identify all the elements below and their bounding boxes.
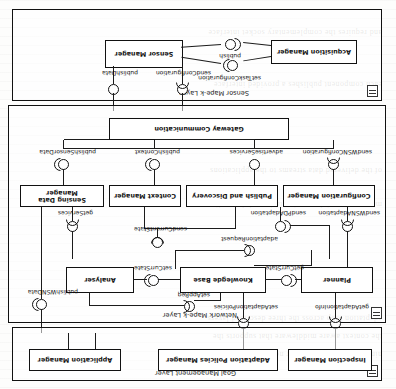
component-planner[interactable]: Planner bbox=[301, 267, 373, 293]
wire bbox=[63, 169, 64, 185]
interface-set-app-req-label: setAppReq bbox=[178, 292, 210, 299]
interface-adaptation-request-label: adaptationRequest bbox=[221, 236, 278, 243]
interface-set-adaptation-policies-label: setAdaptationPolicies bbox=[214, 304, 278, 311]
wire bbox=[68, 333, 69, 349]
wire bbox=[90, 305, 184, 306]
wire bbox=[265, 279, 281, 280]
wire bbox=[235, 207, 236, 229]
wire bbox=[64, 148, 334, 149]
wire bbox=[95, 333, 96, 349]
interface-advertise-services-label: advertiseServices bbox=[230, 149, 283, 156]
interface-set-curr-state-label: setCurrState bbox=[134, 265, 172, 272]
wire bbox=[254, 169, 255, 185]
wire bbox=[220, 293, 221, 301]
interface-publish-label: publish bbox=[219, 53, 241, 60]
interface-publish-sensor-data-label: publishSensorData bbox=[39, 149, 96, 156]
interface-publish-context-label: publishContext bbox=[135, 149, 180, 156]
component-sensing-data-manager[interactable]: Sensing Data Manager bbox=[20, 185, 104, 207]
wire bbox=[63, 140, 64, 149]
wire bbox=[89, 292, 90, 306]
component-adaptation-policies-manager[interactable]: Adaptation Policies Manager bbox=[158, 349, 278, 371]
interface-get-adaptation-info-label: getAdaptationInfo bbox=[315, 304, 369, 311]
component-application-manager[interactable]: Application Manager bbox=[29, 349, 121, 371]
interface-send-pd-adaptation-ball[interactable] bbox=[275, 221, 286, 232]
wire bbox=[347, 231, 348, 269]
interface-send-configuration-label: sendConfiguration bbox=[156, 70, 211, 77]
component-configuration-manager[interactable]: Configuration Manager bbox=[283, 185, 375, 207]
component-acquisition-manager[interactable]: Acquisition Manager bbox=[271, 40, 357, 64]
component-gateway-communication[interactable]: Gateway Communication bbox=[109, 118, 289, 140]
wire bbox=[72, 231, 73, 259]
interface-send-curr-ent-state-label: sendCurrentState bbox=[134, 226, 187, 233]
interface-send-wsn-configuration-label: sendWSNConfiguration bbox=[303, 149, 372, 156]
wire bbox=[158, 279, 180, 280]
wire bbox=[41, 207, 42, 299]
wire bbox=[329, 226, 330, 259]
component-sensor-manager[interactable]: Sensor Manager bbox=[105, 40, 183, 68]
layer-sensor-mapek-label: Sensor Mape-k Layer bbox=[180, 89, 249, 97]
component-stereotype-icon bbox=[371, 307, 382, 319]
wire bbox=[311, 250, 312, 266]
interface-publish-data-label: publishData bbox=[102, 70, 138, 77]
wire bbox=[254, 140, 255, 149]
interface-send-pd-adaptation-label: sendPDAdaptation bbox=[251, 210, 306, 217]
interface-get-curr-state-ball[interactable] bbox=[281, 275, 292, 286]
wire bbox=[176, 250, 244, 251]
wire bbox=[154, 140, 155, 149]
component-context-manager[interactable]: Context Manager bbox=[109, 185, 181, 207]
component-stereotype-icon bbox=[367, 85, 378, 97]
wire bbox=[295, 279, 301, 280]
interface-publish-ball[interactable] bbox=[225, 39, 236, 50]
interface-send-wsn-adaptation-label: sendWSNAdaptation bbox=[319, 210, 380, 217]
layer-network-mapek-label: Network Mape-k Layer bbox=[163, 311, 237, 319]
wire bbox=[133, 279, 147, 280]
interface-get-services-label: getServices bbox=[58, 210, 93, 217]
component-knowlegde-base[interactable]: Knowlegde Base bbox=[180, 267, 266, 293]
diagram-canvas: ning of the wireless sensor network infr… bbox=[0, 0, 396, 389]
wire bbox=[333, 169, 334, 185]
wire bbox=[290, 225, 330, 226]
wire bbox=[64, 139, 109, 140]
wire bbox=[155, 139, 255, 140]
interface-publish-wsn-data-label: publishWSNData bbox=[28, 289, 78, 296]
component-inspection-manager[interactable]: Inspection Manager bbox=[288, 349, 372, 371]
wire bbox=[194, 300, 221, 301]
wire bbox=[333, 140, 334, 149]
component-publish-and-discovery[interactable]: Publish and Discovery bbox=[186, 185, 278, 207]
wire bbox=[154, 169, 155, 185]
interface-get-curr-state-label: getCurrState bbox=[265, 265, 304, 272]
wire bbox=[175, 250, 176, 269]
